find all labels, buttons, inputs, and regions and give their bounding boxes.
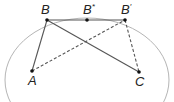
segments xyxy=(32,20,139,72)
label-B-prime: B′ xyxy=(121,2,132,17)
dashed-segment-A-Bp xyxy=(32,20,125,71)
label-A: A xyxy=(27,73,37,88)
label-B-star: B* xyxy=(83,2,96,17)
point-Bp xyxy=(123,18,127,22)
label-B: B xyxy=(41,2,50,17)
point-Bs xyxy=(85,18,89,22)
labels: B B* B′ A C xyxy=(27,2,145,89)
points xyxy=(30,18,141,74)
geometry-diagram: B B* B′ A C xyxy=(0,0,174,102)
segment-B-C xyxy=(47,20,139,72)
label-C: C xyxy=(135,74,145,89)
segment-B-A xyxy=(32,20,47,71)
point-B xyxy=(45,18,49,22)
ellipse xyxy=(5,18,169,102)
